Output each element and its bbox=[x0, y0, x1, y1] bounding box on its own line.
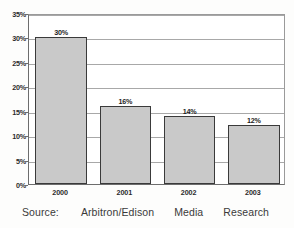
bar: 16% bbox=[100, 106, 151, 184]
gridline bbox=[29, 15, 284, 16]
bar-value-label: 16% bbox=[118, 97, 132, 106]
y-axis-tick-label: 20% bbox=[0, 83, 26, 92]
y-axis-tick-label: 15% bbox=[0, 107, 26, 116]
x-axis-tick-label: 2001 bbox=[117, 188, 133, 197]
source-caption: Source:Arbitron/EdisonMediaResearch bbox=[22, 206, 284, 218]
source-label: Source: bbox=[22, 206, 59, 218]
y-axis-tick-label: 0% bbox=[0, 181, 26, 190]
y-axis-tick-label: 25% bbox=[0, 58, 26, 67]
x-axis-tick-label: 2000 bbox=[52, 188, 68, 197]
bar: 30% bbox=[35, 37, 86, 184]
bar-chart-figure: 0%5%10%15%20%25%30%35% 30%16%14%12% 2000… bbox=[0, 0, 294, 228]
y-axis-tick-mark bbox=[25, 185, 28, 186]
y-axis-tick-label: 35% bbox=[0, 10, 26, 19]
y-axis-tick-label: 10% bbox=[0, 132, 26, 141]
source-media: Media bbox=[174, 206, 203, 218]
x-axis-tick-label: 2003 bbox=[245, 188, 261, 197]
bar-value-label: 30% bbox=[54, 28, 68, 37]
bar: 14% bbox=[164, 116, 215, 184]
bar-value-label: 12% bbox=[247, 116, 261, 125]
plot-area: 30%16%14%12% bbox=[28, 14, 285, 185]
y-axis-tick-label: 30% bbox=[0, 34, 26, 43]
y-axis-tick-label: 5% bbox=[0, 156, 26, 165]
bar-value-label: 14% bbox=[183, 107, 197, 116]
x-axis-tick-label: 2002 bbox=[181, 188, 197, 197]
source-organization: Arbitron/Edison bbox=[81, 206, 154, 218]
source-research: Research bbox=[223, 206, 269, 218]
bar: 12% bbox=[228, 125, 279, 184]
